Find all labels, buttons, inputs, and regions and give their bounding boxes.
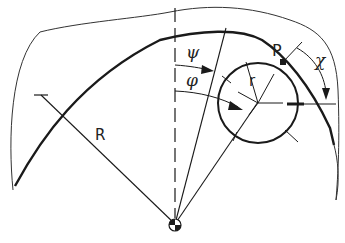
center-marker <box>169 219 181 231</box>
label-psi: ψ <box>186 42 200 62</box>
diagram-canvas: R r P ψ φ χ <box>0 0 345 243</box>
chi-arrowhead <box>322 88 330 100</box>
radius-R-line <box>41 95 175 224</box>
psi-arrowhead <box>201 65 214 74</box>
label-phi: φ <box>186 70 198 90</box>
label-P: P <box>272 41 282 60</box>
label-chi: χ <box>314 50 327 70</box>
circle-tick-1 <box>258 74 274 103</box>
phi-arrowhead <box>228 101 243 110</box>
phi-line <box>175 102 258 224</box>
psi-line <box>175 28 226 224</box>
label-R: R <box>95 126 105 144</box>
rim-tick-bottom <box>285 130 298 142</box>
label-r: r <box>249 72 256 90</box>
circle-tick-3 <box>249 103 258 115</box>
